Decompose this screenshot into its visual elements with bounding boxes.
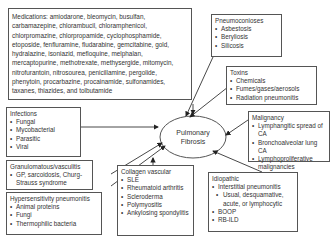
granulomatous-box: Granulomatous/vasculitis GP, sarcoidosis…: [6, 160, 93, 190]
list-item: Fumes/gases/aerosols: [230, 85, 313, 93]
list-item: Chemicals: [230, 77, 313, 85]
list-item: Polymyositis: [121, 201, 190, 209]
granulomatous-title: Granulomatous/vasculitis: [10, 163, 89, 171]
list-item: Silicosis: [215, 42, 278, 50]
hypersensitivity-title: Hypersensitivity pneumonitis: [10, 195, 98, 203]
list-item: Animal proteins: [10, 203, 98, 211]
medications-box: Medications: amiodarone, bleomycin, busu…: [8, 8, 192, 100]
list-item: SLE: [121, 176, 190, 184]
list-item: BOOP: [212, 208, 294, 216]
hypersensitivity-box: Hypersensitivity pneumonitis Animal prot…: [6, 192, 102, 235]
list-item: Thermophilic bacteria: [10, 220, 98, 228]
list-item: RB-ILD: [212, 216, 294, 224]
list-item: Fungi: [10, 211, 98, 219]
pulmonary-fibrosis-node: Pulmonary Fibrosis: [160, 116, 226, 158]
list-item: Viral: [10, 143, 77, 151]
list-item: Asbestosis: [215, 25, 278, 33]
list-item: Radiation pneumonitis: [230, 94, 313, 102]
medications-text: Medications: amiodarone, bleomycin, busu…: [12, 13, 173, 94]
list-item: Ankylosing spondylitis: [121, 209, 190, 217]
idiopathic-box: Idiopathic Interstitial pneumonitis Usua…: [208, 172, 298, 232]
list-item: Fungal: [10, 118, 77, 126]
collagen-title: Collagen vascular: [121, 168, 190, 176]
list-item: Lymphoproliferative malignancies: [252, 155, 326, 171]
center-label-line2: Fibrosis: [181, 137, 206, 146]
toxins-box: Toxins Chemicals Fumes/gases/aerosols Ra…: [226, 66, 317, 105]
list-item: Interstitial pneumonitis: [212, 183, 294, 191]
list-item: Scleroderma: [121, 193, 190, 201]
toxins-title: Toxins: [230, 69, 313, 77]
center-label-line1: Pulmonary: [176, 128, 209, 137]
list-item: Beryliosis: [215, 33, 278, 41]
list-item: GP, sarcoidosis, Churg-Strauss syndrome: [10, 171, 89, 187]
infections-box: Infections Fungal Mycobacterial Parasiti…: [6, 107, 81, 157]
list-item: Lymphangitic spread of CA: [252, 122, 326, 138]
pneumoconioses-box: Pneumoconioses Asbestosis Beryliosis Sil…: [211, 14, 282, 57]
list-item: Mycobacterial: [10, 126, 77, 134]
malignancy-title: Malignancy: [252, 114, 326, 122]
list-item: Bronchoalveolar lung CA: [252, 139, 326, 155]
idiopathic-title: Idiopathic: [212, 175, 294, 183]
collagen-box: Collagen vascular SLE Rheumatoid arthrit…: [117, 165, 194, 236]
infections-title: Infections: [10, 110, 77, 118]
pneumoconioses-title: Pneumoconioses: [215, 17, 278, 25]
malignancy-box: Malignancy Lymphangitic spread of CA Bro…: [248, 111, 330, 162]
list-item: Rheumatoid arthritis: [121, 184, 190, 192]
list-subitem: Usual, desquamative, acute, or lymphocyt…: [212, 191, 294, 207]
list-item: Parasitic: [10, 135, 77, 143]
